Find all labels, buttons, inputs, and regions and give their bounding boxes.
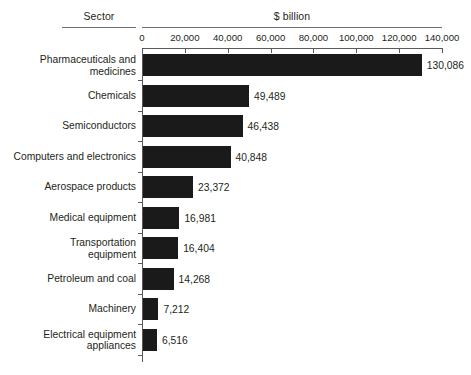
x-tick-label: 20,000 (170, 32, 199, 43)
chart-row: Machinery7,212 (0, 294, 471, 324)
bar (143, 207, 179, 229)
bar-value-label: 49,489 (254, 90, 286, 101)
category-label: Machinery (0, 303, 136, 315)
x-tick-label: 40,000 (213, 32, 242, 43)
bar-value-label: 14,268 (179, 273, 211, 284)
chart-row: Computers and electronics40,848 (0, 142, 471, 172)
category-label: Computers and electronics (0, 151, 136, 163)
bar-value-label: 46,438 (248, 121, 280, 132)
chart-row: Medical equipment16,981 (0, 203, 471, 233)
bar-value-label: 16,981 (184, 212, 216, 223)
bar (143, 176, 193, 198)
sector-header-rule (62, 27, 136, 28)
bar-value-label: 7,212 (163, 304, 189, 315)
x-tick-label: 100,000 (339, 32, 374, 43)
bar-value-label: 40,848 (236, 151, 268, 162)
category-label: Electrical equipment appliances (0, 328, 136, 351)
bar-value-label: 16,404 (183, 243, 215, 254)
bar (143, 237, 178, 259)
chart-row: Pharmaceuticals and medicines130,086 (0, 50, 471, 80)
x-tick-label: 80,000 (299, 32, 328, 43)
chart-row: Chemicals49,489 (0, 81, 471, 111)
chart-row: Transportation equipment16,404 (0, 233, 471, 263)
bar (143, 115, 243, 137)
unit-column-header: $ billion (142, 10, 442, 22)
category-label: Petroleum and coal (0, 273, 136, 285)
category-label: Medical equipment (0, 212, 136, 224)
bar (143, 329, 157, 351)
category-label: Pharmaceuticals and medicines (0, 54, 136, 77)
bar-chart: Sector $ billion 020,00040,00060,00080,0… (0, 0, 471, 375)
bar (143, 54, 422, 76)
bar (143, 85, 249, 107)
bar (143, 146, 231, 168)
category-label: Semiconductors (0, 120, 136, 132)
unit-header-rule (142, 27, 442, 28)
bar-value-label: 23,372 (198, 182, 230, 193)
x-axis-tick-labels: 020,00040,00060,00080,000100,000120,0001… (0, 32, 471, 46)
category-label: Aerospace products (0, 181, 136, 193)
category-label: Transportation equipment (0, 237, 136, 260)
sector-column-header: Sector (62, 10, 136, 22)
y-tick-mark (138, 355, 142, 356)
bar-value-label: 6,516 (162, 334, 188, 345)
category-label: Chemicals (0, 90, 136, 102)
x-tick-label: 140,000 (425, 32, 460, 43)
chart-row: Aerospace products23,372 (0, 172, 471, 202)
bar (143, 298, 158, 320)
chart-row: Electrical equipment appliances6,516 (0, 325, 471, 355)
x-tick-label: 0 (139, 32, 144, 43)
x-axis-line (142, 48, 442, 49)
chart-row: Petroleum and coal14,268 (0, 264, 471, 294)
x-tick-label: 120,000 (382, 32, 417, 43)
chart-row: Semiconductors46,438 (0, 111, 471, 141)
x-tick-label: 60,000 (256, 32, 285, 43)
bar-value-label: 130,086 (427, 60, 464, 71)
bar (143, 268, 174, 290)
